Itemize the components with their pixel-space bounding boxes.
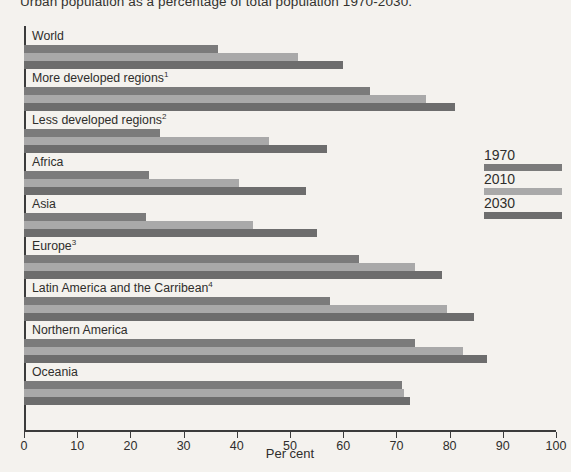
legend-label: 1970 [484, 148, 515, 163]
bar-2010 [24, 221, 253, 229]
legend-label: 2030 [484, 196, 515, 211]
bar-2010 [24, 347, 463, 355]
bar-2010 [24, 305, 447, 313]
legend-item: 2030 [484, 196, 562, 220]
bar-group: Oceania [24, 362, 556, 404]
bar-group-label: Northern America [32, 324, 128, 336]
bar-1970 [24, 339, 415, 347]
bar-group-label: Africa [32, 156, 63, 168]
bar-group-label: More developed regions1 [32, 72, 168, 84]
x-tick [130, 432, 131, 438]
bar-2010 [24, 263, 415, 271]
bar-2010 [24, 389, 404, 397]
bar-2010 [24, 179, 239, 187]
urban-population-bar-chart: Urban population as a percentage of tota… [0, 0, 571, 472]
legend-swatch [484, 212, 562, 219]
bar-1970 [24, 129, 160, 137]
bar-1970 [24, 87, 370, 95]
bar-group: Northern America [24, 320, 556, 362]
bar-group: Asia [24, 194, 556, 236]
legend-swatch [484, 188, 562, 195]
bar-group: Europe3 [24, 236, 556, 278]
bar-group: Less developed regions2 [24, 110, 556, 152]
footnote-marker: 3 [72, 238, 76, 247]
bar-group-label: Less developed regions2 [32, 114, 166, 126]
x-tick [77, 432, 78, 438]
bar-1970 [24, 171, 149, 179]
footnote-marker: 1 [164, 70, 168, 79]
bar-2010 [24, 53, 298, 61]
bar-2010 [24, 137, 269, 145]
x-tick [184, 432, 185, 438]
x-tick [343, 432, 344, 438]
x-tick [290, 432, 291, 438]
chart-title: Urban population as a percentage of tota… [20, 0, 550, 9]
bar-group: Latin America and the Carribean4 [24, 278, 556, 320]
bar-1970 [24, 213, 146, 221]
legend-swatch [484, 164, 562, 171]
plot-area: WorldMore developed regions1Less develop… [24, 26, 556, 430]
bar-2030 [24, 397, 410, 405]
legend-item: 1970 [484, 148, 562, 172]
bar-group: World [24, 26, 556, 68]
bar-1970 [24, 381, 402, 389]
x-tick [237, 432, 238, 438]
x-tick [24, 432, 25, 438]
bar-group-label: World [32, 30, 64, 42]
x-axis-title: Per cent [24, 446, 556, 461]
bar-group: More developed regions1 [24, 68, 556, 110]
x-tick [450, 432, 451, 438]
bar-2010 [24, 95, 426, 103]
bar-group-label: Asia [32, 198, 56, 210]
bar-group-label: Latin America and the Carribean4 [32, 282, 213, 294]
legend-label: 2010 [484, 172, 515, 187]
bar-1970 [24, 45, 218, 53]
bar-group-label: Oceania [32, 366, 78, 378]
legend-item: 2010 [484, 172, 562, 196]
footnote-marker: 2 [162, 112, 166, 121]
bar-group-label: Europe3 [32, 240, 76, 252]
x-tick [556, 432, 557, 438]
chart-legend: 197020102030 [484, 148, 562, 220]
bar-group: Africa [24, 152, 556, 194]
x-tick [503, 432, 504, 438]
bar-1970 [24, 297, 330, 305]
footnote-marker: 4 [208, 280, 212, 289]
bar-1970 [24, 255, 359, 263]
x-tick [396, 432, 397, 438]
